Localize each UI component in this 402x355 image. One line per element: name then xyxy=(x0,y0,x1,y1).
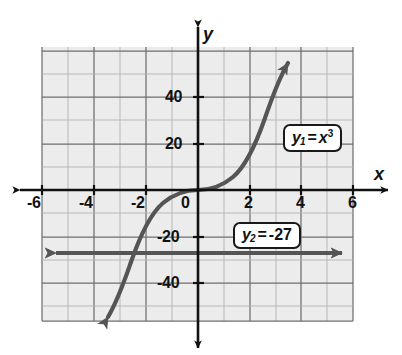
x-tick-label-4: 4 xyxy=(296,194,305,212)
y-axis-name: y xyxy=(203,24,213,45)
label-y1-subscript: 1 xyxy=(300,136,306,147)
x-tick-label-2: 2 xyxy=(244,194,253,212)
label-y2-operator: = xyxy=(257,226,266,243)
label-y2-subscript: 2 xyxy=(250,233,256,244)
label-y1-exponent: 3 xyxy=(328,128,334,139)
label-y1-equation: y1=x3 xyxy=(283,124,342,152)
x-tick-label-0: 0 xyxy=(181,194,190,212)
y-tick-label-40: 40 xyxy=(165,88,182,106)
x-axis-name: x xyxy=(374,164,384,185)
graph-figure: -6 -4 -2 0 2 4 6 40 20 -20 -40 y x y1=x3… xyxy=(0,0,402,355)
y-tick-label--40: -40 xyxy=(157,274,179,292)
label-y1-operator: = xyxy=(307,129,316,146)
y-tick-label-20: 20 xyxy=(165,135,182,153)
coordinate-plane xyxy=(0,0,402,355)
y-tick-label--20: -20 xyxy=(157,228,179,246)
label-y1-base: x xyxy=(319,129,328,146)
label-y2-value: -27 xyxy=(269,226,292,243)
label-y2-equation: y2=-27 xyxy=(233,222,301,249)
x-tick-label--4: -4 xyxy=(79,194,93,212)
x-tick-label--2: -2 xyxy=(131,194,145,212)
x-tick-label-6: 6 xyxy=(348,194,357,212)
x-tick-label--6: -6 xyxy=(27,194,41,212)
